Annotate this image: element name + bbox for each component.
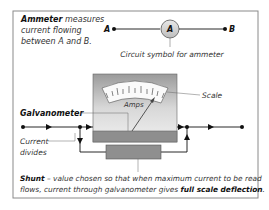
intro-text-line2: current flowing [21,26,82,35]
ammeter-diagram: Ammeter measures current flowing between… [0,0,269,210]
shunt-description-line1: Shunt – value chosen so that when maximu… [20,174,262,183]
galvanometer-label: Galvanometer [20,109,85,118]
symbol-caption: Circuit symbol for ammeter [120,50,224,59]
current-divides-line1: Current [20,137,50,146]
galvanometer-base [93,131,177,142]
node-b-label: B [229,25,235,34]
meter-scale-text: Amps [123,101,144,109]
shunt-resistor [106,145,161,159]
intro-text-line1: Ammeter measures [20,15,104,24]
intro-text-line3: between A and B. [21,37,92,46]
ammeter-symbol-letter: A [166,25,173,34]
scale-label: Scale [202,91,223,100]
shunt-description-line2: flows, current through galvanometer give… [20,185,265,194]
node-a-label: A [103,25,110,34]
node-b-dot [223,27,227,31]
current-divides-line2: divides [20,148,47,157]
